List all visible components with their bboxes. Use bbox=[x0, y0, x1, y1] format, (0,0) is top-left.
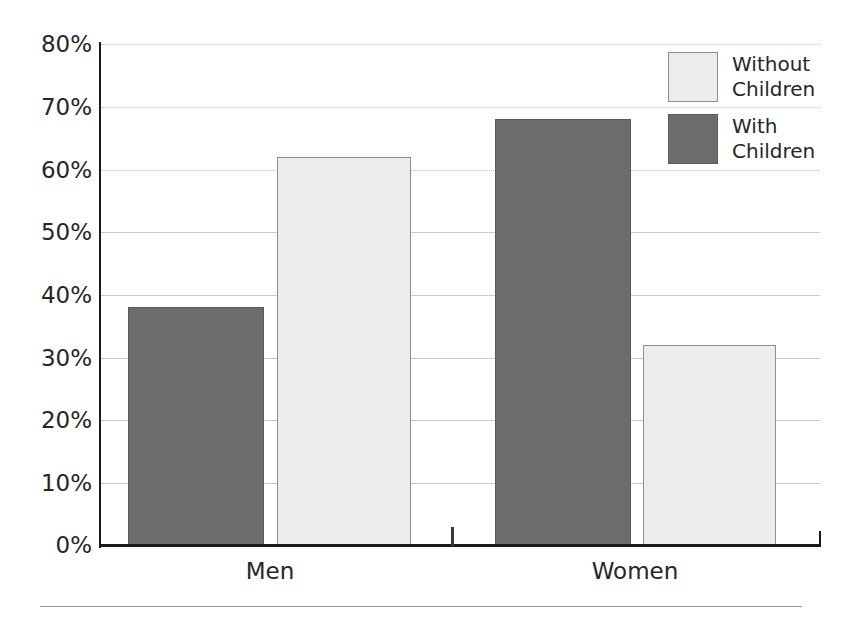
y-tick-label-70: 70% bbox=[6, 94, 92, 120]
y-tick-label-20: 20% bbox=[6, 407, 92, 433]
y-tick-label-50: 50% bbox=[6, 219, 92, 245]
legend-item-with-children[interactable]: With Children bbox=[668, 108, 854, 170]
bar-men-without-children[interactable] bbox=[277, 157, 411, 545]
x-category-label-men: Men bbox=[246, 558, 295, 584]
dark-swatch-icon bbox=[668, 114, 718, 164]
legend-label-line-2: Children bbox=[732, 139, 815, 164]
y-tick-label-0: 0% bbox=[6, 532, 92, 558]
bottom-rule bbox=[40, 606, 802, 607]
y-tick-label-60: 60% bbox=[6, 157, 92, 183]
y-tick-label-80: 80% bbox=[6, 31, 92, 57]
y-tick-label-30: 30% bbox=[6, 345, 92, 371]
light-swatch-icon bbox=[668, 52, 718, 102]
x-axis-right-cap bbox=[819, 531, 821, 546]
y-axis-labels: 80% 70% 60% 50% 40% 30% 20% 10% 0% bbox=[0, 0, 92, 629]
legend-label-line-1: With bbox=[732, 114, 815, 139]
bar-women-without-children[interactable] bbox=[643, 345, 776, 545]
x-category-label-women: Women bbox=[592, 558, 679, 584]
legend-label-without-children: Without Children bbox=[732, 52, 815, 102]
x-axis-line bbox=[99, 544, 821, 547]
legend-label-line-1: Without bbox=[732, 52, 815, 77]
category-separator-tick bbox=[451, 527, 454, 546]
legend: Without Children With Children bbox=[668, 46, 854, 170]
bar-men-with-children[interactable] bbox=[128, 307, 264, 545]
legend-item-without-children[interactable]: Without Children bbox=[668, 46, 854, 108]
bar-women-with-children[interactable] bbox=[495, 119, 631, 545]
y-tick-label-10: 10% bbox=[6, 470, 92, 496]
legend-label-with-children: With Children bbox=[732, 114, 815, 164]
y-axis-line bbox=[99, 42, 101, 548]
bar-chart: 80% 70% 60% 50% 40% 30% 20% 10% 0% Men W… bbox=[0, 0, 856, 629]
y-tick-label-40: 40% bbox=[6, 282, 92, 308]
legend-label-line-2: Children bbox=[732, 77, 815, 102]
